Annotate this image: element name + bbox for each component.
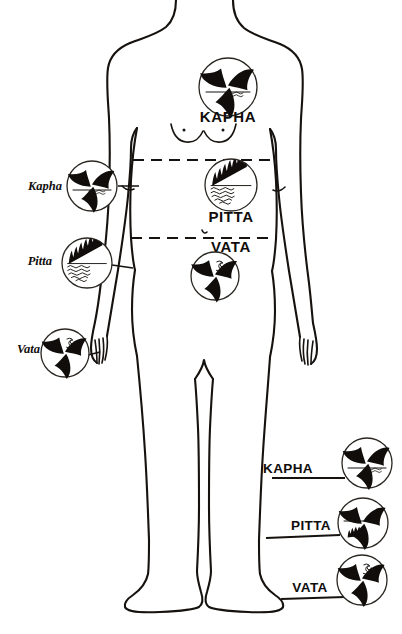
right-label-pitta: PITTA — [291, 518, 331, 533]
symbol-pitta-abdomen — [205, 152, 257, 211]
symbol-kapha-left — [67, 161, 117, 213]
left-label-vata: Vata — [17, 342, 40, 356]
symbol-vata-right — [337, 555, 387, 607]
dosha-body-diagram: KAPHA PITTA VATA Kapha — [0, 0, 402, 634]
leader-left-vata — [88, 352, 100, 355]
left-label-kapha: Kapha — [27, 179, 62, 193]
center-label-pitta: PITTA — [208, 208, 253, 225]
right-label-vata: VATA — [292, 580, 327, 595]
symbol-vata-pelvis — [191, 252, 239, 303]
left-label-pitta: Pitta — [28, 254, 52, 268]
symbol-pitta-right — [338, 498, 388, 550]
nipple-right — [222, 129, 225, 132]
center-label-kapha: KAPHA — [200, 108, 256, 125]
symbol-vata-left — [41, 329, 89, 379]
leader-left-pitta — [112, 265, 133, 268]
region-dividers — [131, 160, 276, 238]
diagram-canvas: KAPHA PITTA VATA Kapha — [0, 0, 402, 634]
symbol-kapha-right — [342, 438, 392, 490]
leader-right-vata — [281, 597, 345, 599]
right-label-kapha: KAPHA — [263, 461, 313, 476]
nipple-left — [183, 129, 186, 132]
symbol-pitta-left — [62, 231, 112, 288]
leader-right-pitta — [266, 535, 340, 538]
